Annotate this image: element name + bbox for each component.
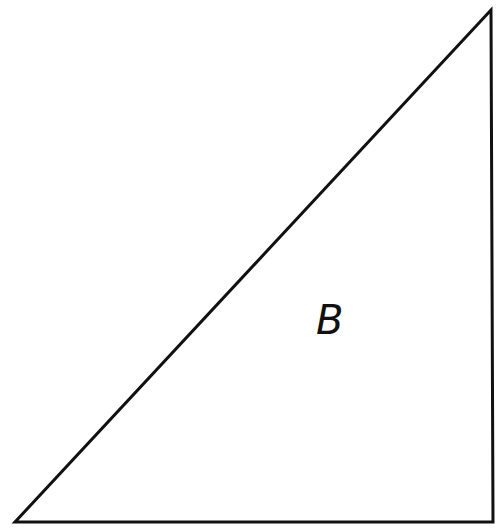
triangle-figure (0, 0, 501, 531)
triangle-label: B (316, 300, 343, 340)
right-triangle (15, 10, 493, 522)
diagram-canvas: B (0, 0, 501, 531)
